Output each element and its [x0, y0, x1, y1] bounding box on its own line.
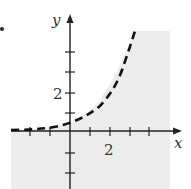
shaded-region	[11, 31, 170, 189]
y-axis-arrow-icon	[67, 14, 74, 23]
inequality-graph: y x 2 2	[0, 0, 191, 189]
bullet-dot-icon	[0, 27, 4, 31]
y-axis-label: y	[51, 11, 61, 29]
x-tick-label-2: 2	[104, 141, 114, 159]
x-axis-label: x	[174, 134, 183, 152]
y-tick-label-2: 2	[53, 85, 63, 103]
